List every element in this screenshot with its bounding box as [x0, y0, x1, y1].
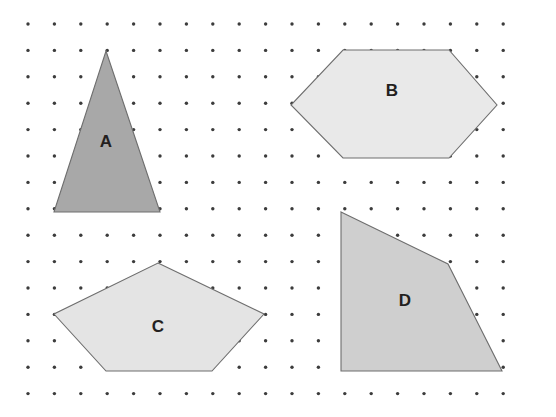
grid-dot: [211, 154, 214, 157]
grid-dot: [238, 392, 241, 395]
grid-dot: [290, 366, 293, 369]
grid-dot: [79, 234, 82, 237]
polygon-label-b: B: [386, 81, 398, 100]
grid-dot: [475, 22, 478, 25]
grid-dot: [53, 339, 56, 342]
grid-dot: [290, 22, 293, 25]
grid-dot: [238, 234, 241, 237]
polygon-b: [291, 50, 497, 158]
grid-dot: [26, 313, 29, 316]
grid-dot: [132, 234, 135, 237]
grid-dot: [53, 75, 56, 78]
grid-dot: [475, 392, 478, 395]
grid-dot: [185, 234, 188, 237]
polygon-layer: [54, 50, 502, 371]
polygon-label-a: A: [100, 132, 112, 151]
grid-dot: [238, 286, 241, 289]
grid-dot: [53, 366, 56, 369]
grid-dot: [502, 154, 505, 157]
grid-dot: [317, 366, 320, 369]
grid-dot: [396, 392, 399, 395]
grid-dot: [238, 181, 241, 184]
grid-dot: [502, 22, 505, 25]
grid-dot: [79, 260, 82, 263]
grid-dot: [106, 22, 109, 25]
grid-dot: [264, 234, 267, 237]
grid-dot: [211, 49, 214, 52]
grid-dot: [502, 313, 505, 316]
grid-dot: [53, 181, 56, 184]
grid-dot: [502, 181, 505, 184]
grid-dot: [185, 128, 188, 131]
grid-dot: [449, 181, 452, 184]
grid-dot: [264, 392, 267, 395]
grid-dot: [317, 207, 320, 210]
grid-dot: [185, 181, 188, 184]
grid-dot: [264, 366, 267, 369]
grid-dot: [79, 22, 82, 25]
grid-dot: [158, 75, 161, 78]
grid-dot: [502, 207, 505, 210]
grid-dot: [396, 207, 399, 210]
grid-dot: [26, 128, 29, 131]
grid-dot: [475, 313, 478, 316]
grid-dot: [502, 75, 505, 78]
grid-dot: [79, 286, 82, 289]
grid-dot: [238, 260, 241, 263]
grid-dot: [502, 339, 505, 342]
grid-dot: [264, 102, 267, 105]
grid-dot: [158, 128, 161, 131]
grid-dot: [158, 234, 161, 237]
grid-dot: [264, 339, 267, 342]
grid-dot: [264, 22, 267, 25]
grid-dot: [211, 392, 214, 395]
grid-dot: [475, 75, 478, 78]
grid-dot: [26, 154, 29, 157]
grid-dot: [370, 181, 373, 184]
grid-dot: [132, 102, 135, 105]
grid-dot: [211, 22, 214, 25]
grid-dot: [422, 22, 425, 25]
grid-dot: [264, 128, 267, 131]
grid-dot: [26, 260, 29, 263]
grid-dot: [79, 392, 82, 395]
grid-dot: [26, 339, 29, 342]
grid-dot: [26, 102, 29, 105]
grid-dot: [53, 102, 56, 105]
grid-dot: [264, 154, 267, 157]
grid-dot: [475, 286, 478, 289]
grid-dot: [475, 49, 478, 52]
grid-dot: [185, 154, 188, 157]
grid-dot: [238, 366, 241, 369]
grid-dot: [449, 392, 452, 395]
grid-dot: [422, 181, 425, 184]
grid-dot: [343, 207, 346, 210]
grid-dot: [290, 339, 293, 342]
grid-dot: [502, 49, 505, 52]
grid-dot: [449, 207, 452, 210]
grid-dot: [317, 392, 320, 395]
grid-dot: [370, 392, 373, 395]
grid-dot: [26, 286, 29, 289]
grid-dot: [53, 22, 56, 25]
grid-dot: [343, 181, 346, 184]
grid-dot: [185, 207, 188, 210]
grid-dot: [264, 181, 267, 184]
grid-dot: [290, 154, 293, 157]
grid-dot: [79, 75, 82, 78]
grid-dot: [317, 49, 320, 52]
grid-dot: [158, 392, 161, 395]
grid-dot: [211, 260, 214, 263]
grid-dot: [290, 313, 293, 316]
grid-dot: [502, 392, 505, 395]
grid-dot: [132, 260, 135, 263]
grid-dot: [475, 234, 478, 237]
grid-dot: [53, 392, 56, 395]
grid-dot: [211, 207, 214, 210]
grid-dot: [422, 207, 425, 210]
grid-dot: [185, 49, 188, 52]
grid-dot: [475, 154, 478, 157]
grid-dot: [26, 366, 29, 369]
worksheet-canvas: ABCD: [0, 0, 556, 417]
grid-dot: [502, 286, 505, 289]
